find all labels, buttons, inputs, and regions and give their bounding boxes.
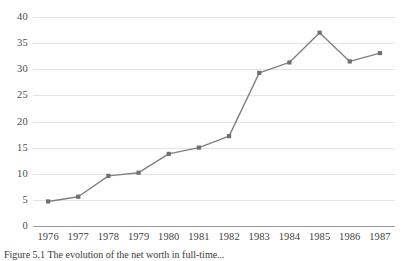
x-axis-tick-labels: 1976197719781979198019811982198319841985… xyxy=(33,230,395,246)
series-line xyxy=(48,33,380,202)
data-point-1987 xyxy=(378,51,382,55)
x-tick-label-1987: 1987 xyxy=(359,230,401,243)
data-series xyxy=(33,17,395,226)
y-tick-label-40: 40 xyxy=(2,12,28,22)
data-point-1978 xyxy=(106,174,110,178)
data-point-1979 xyxy=(136,171,140,175)
y-tick-label-25: 25 xyxy=(2,90,28,100)
series-markers xyxy=(46,31,382,204)
data-point-1977 xyxy=(76,195,80,199)
figure-caption: Figure 5.1 The evolution of the net wort… xyxy=(4,249,400,261)
y-tick-label-10: 10 xyxy=(2,169,28,179)
y-tick-label-5: 5 xyxy=(2,195,28,205)
data-point-1986 xyxy=(348,59,352,63)
data-point-1981 xyxy=(197,146,201,150)
y-tick-label-0: 0 xyxy=(2,221,28,231)
data-point-1985 xyxy=(317,31,321,35)
y-tick-label-20: 20 xyxy=(2,117,28,127)
y-tick-label-35: 35 xyxy=(2,38,28,48)
data-point-1976 xyxy=(46,199,50,203)
y-tick-label-15: 15 xyxy=(2,143,28,153)
data-point-1984 xyxy=(287,60,291,64)
y-tick-label-30: 30 xyxy=(2,64,28,74)
data-point-1982 xyxy=(227,134,231,138)
data-point-1980 xyxy=(167,152,171,156)
data-point-1983 xyxy=(257,71,261,75)
x-axis-line xyxy=(33,226,395,227)
plot-area xyxy=(33,17,395,226)
